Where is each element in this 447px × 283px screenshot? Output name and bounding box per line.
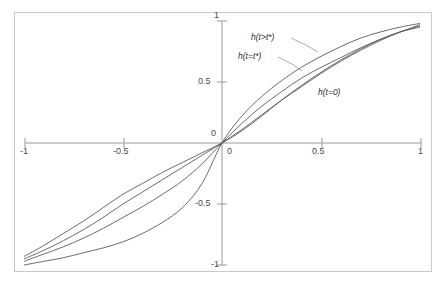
- x-tick-label--1: -1: [20, 147, 28, 156]
- leader-line-h-t-greater-tstar: [291, 38, 318, 52]
- x-tick-label-0: 0: [227, 147, 232, 156]
- x-tick-label--0.5: -0.5: [113, 147, 129, 156]
- x-tick-label-1: 1: [418, 147, 423, 156]
- y-tick-label--1: -1: [211, 260, 219, 269]
- x-tick-label-0.5: 0.5: [312, 147, 325, 156]
- chart-plot-area: [0, 0, 447, 283]
- label-h-t-equals-tstar: h(t=t*): [238, 52, 261, 61]
- y-tick-label--0.5: -0.5: [195, 199, 211, 208]
- y-tick-label-1: 1: [214, 11, 219, 20]
- chart-figure: -1 -0.5 0 0.5 1 1 0.5 0 -0.5 -1 h(t>t*) …: [0, 0, 447, 283]
- y-tick-label-0.5: 0.5: [198, 77, 211, 86]
- label-h-t-equals-0: h(t=0): [318, 88, 340, 97]
- leader-line-h-t-equals-tstar: [278, 57, 302, 71]
- y-tick-label-0: 0: [211, 129, 216, 138]
- label-h-t-greater-tstar: h(t>t*): [251, 33, 274, 42]
